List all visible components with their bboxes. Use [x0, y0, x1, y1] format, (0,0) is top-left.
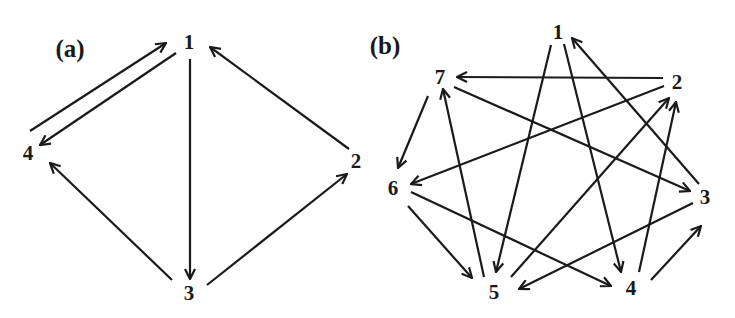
- node-2: 2: [351, 149, 362, 173]
- edge-3-to-2: [207, 174, 347, 285]
- edge-4-to-2: [639, 102, 676, 272]
- graph-panel-b: 1234567(b): [370, 20, 711, 304]
- edge-4-to-3: [651, 226, 701, 280]
- edge-2-to-7: [457, 77, 663, 78]
- node-1: 1: [184, 30, 195, 54]
- node-5: 5: [489, 280, 500, 304]
- node-2: 2: [672, 70, 683, 94]
- edge-2-to-1: [210, 47, 349, 149]
- node-3: 3: [700, 185, 711, 209]
- node-4: 4: [23, 141, 34, 165]
- edge-7-to-3: [454, 87, 690, 191]
- edge-7-to-6: [398, 96, 428, 168]
- edge-3-to-1: [572, 38, 699, 184]
- node-6: 6: [388, 176, 399, 200]
- edge-4-to-1: [30, 43, 166, 131]
- node-4: 4: [626, 276, 637, 300]
- edge-5-to-7: [443, 89, 484, 277]
- panel-label-a: (a): [55, 35, 84, 63]
- node-7: 7: [435, 65, 446, 89]
- panel-label-b: (b): [370, 32, 401, 60]
- node-1: 1: [553, 20, 564, 44]
- graph-panel-a: 1234(a): [23, 30, 362, 305]
- directed-graph-figure: 1234(a) 1234567(b): [0, 0, 735, 318]
- node-3: 3: [184, 281, 195, 305]
- edge-3-to-4: [50, 163, 172, 280]
- edge-1-to-4: [40, 53, 176, 145]
- edge-1-to-5: [496, 45, 551, 272]
